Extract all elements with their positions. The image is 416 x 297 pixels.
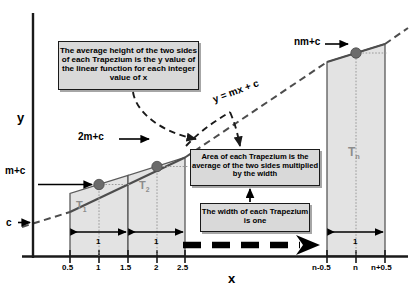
y-axis-label: y — [17, 110, 24, 125]
trapezium-label-1-sub: 1 — [83, 206, 87, 213]
x-tick-n-minus-0-5: n-0.5 — [312, 263, 331, 272]
callout-average-height: The average height of the two sides of e… — [58, 41, 199, 90]
x-tick-n: n — [353, 263, 358, 272]
trapezium-label-n: Tn — [348, 145, 360, 161]
point-label-nm-plus-c: nm+c — [294, 36, 320, 47]
callout-width: The width of each Trapezium is one — [200, 203, 310, 232]
leader-average-height — [133, 92, 196, 139]
trapezium-label-n-sub: n — [355, 152, 360, 161]
point-n — [351, 48, 361, 58]
width-label-1: 1 — [96, 237, 100, 246]
trapezium-rule-diagram: y x c m+c 2m+c nm+c y = mx + c 0.5 1 1.5… — [0, 0, 416, 297]
y-intercept-label: c — [6, 217, 12, 228]
point-label-m-plus-c: m+c — [5, 165, 25, 176]
continuation-arrow — [183, 235, 320, 255]
trapezium-label-2-sub: 2 — [146, 186, 150, 193]
leader-area — [230, 112, 240, 146]
x-tick-1: 1 — [96, 263, 100, 272]
point-label-2m-plus-c: 2m+c — [78, 131, 104, 142]
callout-area: Area of each Trapezium is the average of… — [190, 149, 320, 186]
x-tick-n-plus-0-5: n+0.5 — [371, 263, 392, 272]
point-1 — [94, 179, 104, 189]
x-tick-0-5: 0.5 — [62, 263, 73, 272]
trapezium-label-1: T1 — [76, 199, 87, 213]
trapezium-label-2: T2 — [139, 179, 150, 193]
x-tick-1-5: 1.5 — [120, 263, 131, 272]
trapezium-label-1-base: T — [76, 199, 83, 211]
width-label-2: 1 — [154, 237, 158, 246]
x-tick-2: 2 — [154, 263, 158, 272]
x-tick-2-5: 2.5 — [177, 263, 188, 272]
point-2 — [152, 161, 162, 171]
width-label-n: 1 — [353, 237, 357, 246]
trapezium-label-2-base: T — [139, 179, 146, 191]
x-axis-label: x — [228, 271, 235, 286]
